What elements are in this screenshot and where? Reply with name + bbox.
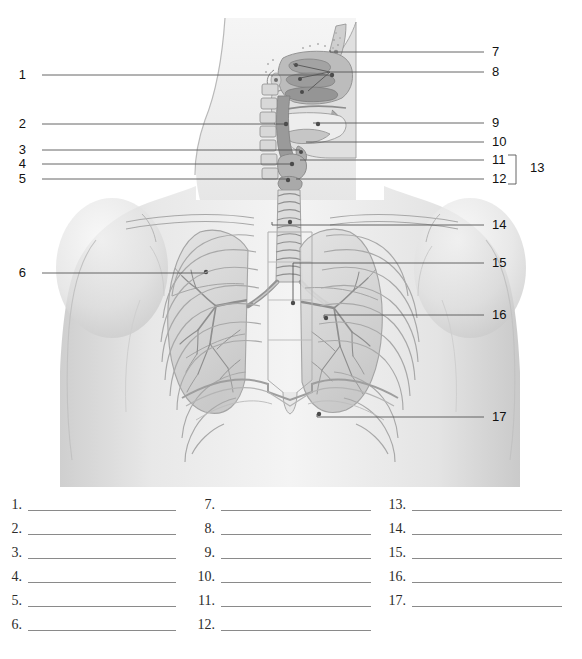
leader-number-11: 11 <box>492 153 506 166</box>
answer-number: 12. <box>0 618 215 633</box>
leader-number-17: 17 <box>492 410 506 423</box>
answer-blank-line[interactable] <box>412 582 562 583</box>
leader-number-8: 8 <box>492 65 499 78</box>
answer-blank-line[interactable] <box>412 606 562 607</box>
leader-number-6: 6 <box>19 266 26 279</box>
leader-number-15: 15 <box>492 256 506 269</box>
answer-row-13[interactable]: 13. <box>0 495 582 513</box>
leader-number-5: 5 <box>19 172 26 185</box>
answer-row-15[interactable]: 15. <box>0 543 582 561</box>
answer-blank-line[interactable] <box>221 630 371 631</box>
answer-blank-line[interactable] <box>412 558 562 559</box>
leader-number-14: 14 <box>492 218 506 231</box>
answer-number: 16. <box>0 570 406 585</box>
leader-number-10: 10 <box>492 135 506 148</box>
leader-number-4: 4 <box>19 157 26 170</box>
answer-row-16[interactable]: 16. <box>0 567 582 585</box>
answer-number: 13. <box>0 498 406 513</box>
leader-number-16: 16 <box>492 308 506 321</box>
leader-number-2: 2 <box>19 117 26 130</box>
answer-number: 17. <box>0 594 406 609</box>
leader-number-3: 3 <box>19 143 26 156</box>
leader-number-1: 1 <box>19 68 26 81</box>
worksheet-page: 1234567891011121314151617 1.2.3.4.5.6.7.… <box>0 0 582 659</box>
answer-number: 14. <box>0 522 406 537</box>
leader-bracket-13 <box>508 155 516 184</box>
answer-row-17[interactable]: 17. <box>0 591 582 609</box>
leader-number-13: 13 <box>530 161 544 174</box>
anatomy-diagram: 1234567891011121314151617 <box>0 0 582 487</box>
answer-blank-section: 1.2.3.4.5.6.7.8.9.10.11.12.13.14.15.16.1… <box>0 487 582 659</box>
leader-number-7: 7 <box>492 45 499 58</box>
answer-blank-line[interactable] <box>412 510 562 511</box>
answer-blank-line[interactable] <box>412 534 562 535</box>
answer-row-12[interactable]: 12. <box>0 615 582 633</box>
answer-number: 15. <box>0 546 406 561</box>
leader-number-9: 9 <box>492 116 499 129</box>
leader-number-12: 12 <box>492 172 506 185</box>
answer-row-14[interactable]: 14. <box>0 519 582 537</box>
